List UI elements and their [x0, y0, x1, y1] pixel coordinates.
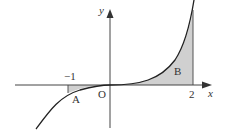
region-a-label: A [72, 93, 80, 105]
origin-label: O [98, 88, 106, 100]
y-axis-arrow-icon [107, 9, 114, 18]
y-axis-label: y [98, 4, 104, 16]
x-axis-label: x [207, 87, 213, 99]
cubic-curve [36, 0, 194, 129]
tick-label-neg1: −1 [64, 70, 76, 82]
tick-label-2: 2 [189, 88, 195, 100]
cubic-graph: y x O −1 2 A B [0, 0, 225, 139]
region-b-label: B [174, 65, 181, 77]
